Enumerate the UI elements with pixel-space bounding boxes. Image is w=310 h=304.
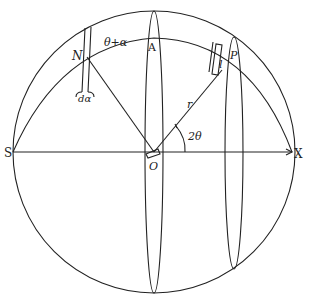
label-P: P — [229, 49, 238, 62]
label-r: r — [187, 98, 193, 111]
label-N: N — [71, 49, 83, 63]
label-theta-plus-alpha: θ+α — [104, 36, 128, 49]
label-A: A — [147, 41, 157, 54]
label-O: O — [149, 160, 158, 173]
label-d-alpha: dα — [78, 93, 91, 104]
angle-2theta-arc — [176, 126, 185, 152]
sphere-diagram: S X O A N P l r 2θ θ+α dα — [0, 0, 310, 304]
label-l: l — [219, 58, 223, 71]
small-circle-ellipse — [225, 37, 243, 269]
label-2theta: 2θ — [187, 130, 202, 143]
label-X: X — [294, 147, 303, 161]
radius-line-to-N — [87, 57, 154, 152]
great-circle-arc — [13, 38, 292, 152]
label-S: S — [4, 146, 12, 160]
